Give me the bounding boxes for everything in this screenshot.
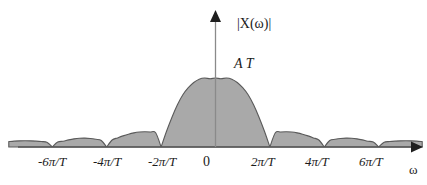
x-tick-label-pos2pi: 2π/T xyxy=(251,155,275,168)
x-tick-label-neg6pi: -6π/T xyxy=(38,155,66,168)
x-tick-label-neg4pi: -4π/T xyxy=(93,155,121,168)
origin-tick-label: 0 xyxy=(203,155,210,169)
x-tick-label-pos6pi: 6π/T xyxy=(359,155,383,168)
x-tick-label-pos4pi: 4π/T xyxy=(305,155,329,168)
y-axis-label: |X(ω)| xyxy=(237,17,271,31)
y-axis-arrowhead xyxy=(210,10,221,22)
x-axis-label: ω xyxy=(409,163,418,176)
figure-container: |X(ω)| A T 0 ω -6π/T -4π/T -2π/T 2π/T 4π… xyxy=(0,0,427,185)
x-tick-label-neg2pi: -2π/T xyxy=(148,155,176,168)
peak-amplitude-label: A T xyxy=(234,57,254,71)
